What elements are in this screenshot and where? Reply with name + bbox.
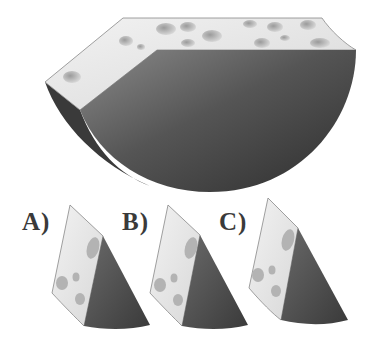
option-c-piece[interactable] [249,198,348,324]
option-c-label: C) [219,208,247,236]
option-a-label: A) [22,208,50,236]
main-cheese-wedge [45,18,356,192]
puzzle-figure [0,0,377,349]
option-b-label: B) [122,208,149,236]
